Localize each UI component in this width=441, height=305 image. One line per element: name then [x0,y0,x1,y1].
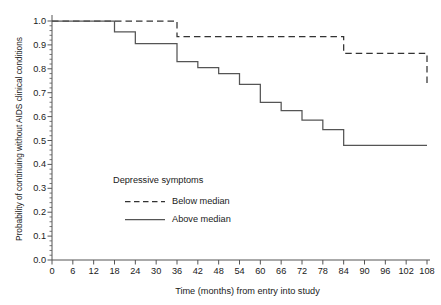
survival-curve-figure: Probability of continuing without AIDS c… [0,0,441,305]
x-axis-tick-label: 0 [49,266,54,276]
x-axis-tick-label: 96 [380,266,390,276]
axis-lines [52,15,430,260]
x-axis-tick-label: 6 [70,266,75,276]
x-axis-tick-label: 42 [193,266,203,276]
x-axis-tick-label: 90 [359,266,369,276]
x-axis-tick-label: 78 [318,266,328,276]
y-axis-major-ticks [48,21,53,260]
x-axis-tick-label: 24 [130,266,140,276]
series-curves [52,21,427,145]
x-axis-tick-label: 84 [339,266,349,276]
legend-label-below-median: Below median [172,196,230,206]
x-axis-title: Time (months) from entry into study [0,286,441,296]
legend-sample-lines [125,202,165,220]
x-axis-tick-label: 72 [297,266,307,276]
x-axis-tick-label: 54 [234,266,244,276]
x-axis-tick-label: 108 [419,266,434,276]
series-line-above-median [52,21,427,145]
x-axis-major-ticks [52,260,427,265]
legend-title: Depressive symptoms [113,175,203,185]
x-axis-tick-label: 48 [214,266,224,276]
x-axis-tick-label: 36 [172,266,182,276]
x-axis-tick-label: 60 [255,266,265,276]
x-axis-tick-label: 66 [276,266,286,276]
legend-label-above-median: Above median [172,214,231,224]
x-axis-tick-label: 12 [89,266,99,276]
x-axis-tick-label: 30 [151,266,161,276]
plot-area [0,0,441,305]
x-axis-tick-label: 18 [109,266,119,276]
x-axis-tick-label: 102 [398,266,413,276]
